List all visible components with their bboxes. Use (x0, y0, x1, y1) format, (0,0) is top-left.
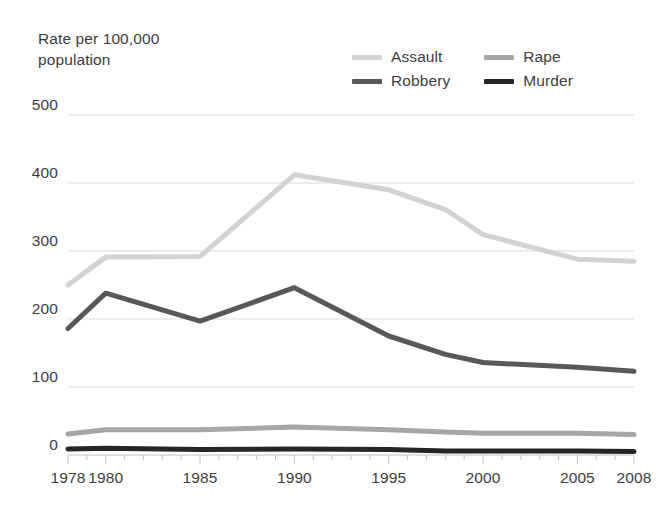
series-line-murder (68, 448, 634, 451)
y-tick-label-500: 500 (8, 96, 58, 114)
x-tick-label-1985: 1985 (172, 469, 228, 487)
series-line-rape (68, 427, 634, 434)
data-series-layer (68, 175, 634, 452)
gridlines (68, 115, 634, 455)
x-tick-label-2005: 2005 (549, 469, 605, 487)
y-tick-label-100: 100 (8, 368, 58, 386)
series-line-assault (68, 175, 634, 285)
x-tick-label-2000: 2000 (455, 469, 511, 487)
axis-tickmarks (68, 455, 634, 464)
y-tick-label-400: 400 (8, 164, 58, 182)
x-tick-label-2008: 2008 (606, 469, 662, 487)
plot-area (0, 0, 663, 526)
y-tick-label-300: 300 (8, 232, 58, 250)
x-tick-label-1995: 1995 (361, 469, 417, 487)
y-tick-label-200: 200 (8, 300, 58, 318)
x-tick-label-1980: 1980 (78, 469, 134, 487)
y-tick-label-0: 0 (8, 436, 58, 454)
series-line-robbery (68, 288, 634, 372)
x-tick-label-1990: 1990 (266, 469, 322, 487)
crime-rate-line-chart: Rate per 100,000 population Assault Rape… (0, 0, 663, 526)
